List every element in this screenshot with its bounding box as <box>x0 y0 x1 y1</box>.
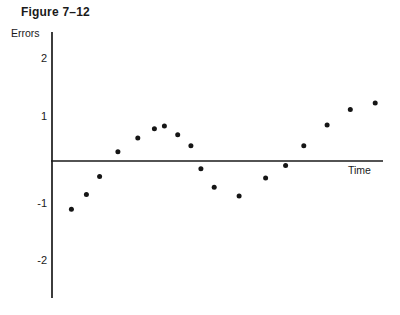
data-point <box>97 174 102 179</box>
data-point <box>301 143 306 148</box>
data-point <box>175 132 180 137</box>
data-point <box>135 136 140 141</box>
data-point <box>263 176 268 181</box>
data-point <box>69 207 74 212</box>
figure-7-12: Figure 7–12 Errors 21-1-2 Time <box>0 0 400 315</box>
y-tick-label: -1 <box>27 197 47 209</box>
data-point <box>348 107 353 112</box>
data-point <box>325 123 330 128</box>
data-point <box>115 149 120 154</box>
data-point <box>162 124 167 129</box>
x-axis-label: Time <box>348 164 371 176</box>
data-point <box>283 163 288 168</box>
y-tick-label: 1 <box>27 110 47 122</box>
data-point <box>84 192 89 197</box>
data-point <box>188 143 193 148</box>
data-point <box>237 194 242 199</box>
data-point <box>152 126 157 131</box>
y-tick-label: 2 <box>27 52 47 64</box>
data-point <box>373 101 378 106</box>
data-point <box>212 185 217 190</box>
scatter-plot <box>0 0 400 315</box>
data-point <box>198 166 203 171</box>
y-tick-label: -2 <box>27 254 47 266</box>
data-points-group <box>69 101 378 212</box>
